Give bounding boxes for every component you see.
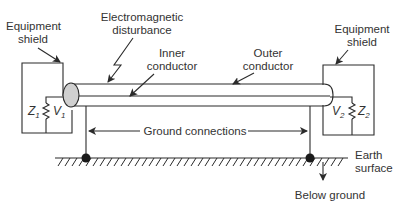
label-equipment-shield-left: Equipment shield [6, 20, 60, 46]
right-equipment-shield [323, 65, 374, 135]
arrow-outer-conductor [233, 73, 254, 84]
symbol-z2: Z2 [358, 104, 370, 120]
z1-resistor-icon [43, 103, 49, 119]
arrow-inner-conductor [130, 74, 154, 96]
cable-right-end [324, 84, 333, 106]
label-em-disturbance: Electromagnetic disturbance [92, 11, 192, 37]
left-circuit-wire [46, 97, 64, 103]
arrow-equipment-shield-right [336, 50, 348, 64]
symbol-v2: V2 [332, 104, 344, 120]
label-earth-surface: Earth surface [355, 149, 393, 175]
label-outer-conductor: Outer conductor [236, 47, 300, 73]
label-ground-connections: Ground connections [142, 125, 248, 138]
symbol-z1: Z1 [28, 104, 40, 120]
label-inner-conductor: Inner conductor [140, 47, 204, 73]
earth-hatching [58, 158, 343, 166]
z2-resistor-icon [349, 103, 355, 119]
arrow-equipment-shield-left [38, 48, 60, 62]
ground-node-right [306, 154, 315, 163]
ground-node-left [82, 154, 91, 163]
label-below-ground: Below ground [290, 189, 370, 202]
lightning-bolt-icon [108, 38, 133, 82]
symbol-v1: V1 [53, 104, 65, 120]
label-equipment-shield-right: Equipment shield [332, 23, 392, 49]
